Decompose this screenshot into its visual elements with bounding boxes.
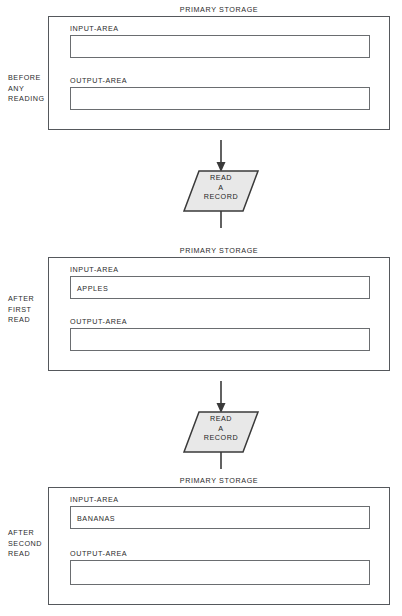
input-area-value-2: APPLES <box>77 284 108 293</box>
input-area-label-2: INPUT-AREA <box>70 265 119 274</box>
stage-label-3-line-2: SECOND <box>8 539 42 550</box>
primary-storage-box-3 <box>48 487 390 605</box>
stage-label-1-line-1: BEFORE <box>8 73 45 84</box>
input-area-label-1: INPUT-AREA <box>70 24 119 33</box>
stage-label-3-line-3: READ <box>8 549 42 560</box>
primary-storage-box-2 <box>48 257 390 371</box>
parallelogram-1 <box>184 171 258 211</box>
storage-title-1: PRIMARY STORAGE <box>48 5 390 14</box>
stage-label-1: BEFORE ANY READING <box>8 73 45 105</box>
stage-label-1-line-3: READING <box>8 94 45 105</box>
stage-label-1-line-2: ANY <box>8 84 45 95</box>
output-area-label-1: OUTPUT-AREA <box>70 76 127 85</box>
stage-label-2-line-2: FIRST <box>8 305 34 316</box>
read-a-record-shape-2 <box>180 381 262 469</box>
output-area-box-2 <box>70 328 370 351</box>
input-area-box-2 <box>70 276 370 299</box>
output-area-box-1 <box>70 87 370 110</box>
input-area-box-1 <box>70 35 370 58</box>
output-area-box-3 <box>70 560 370 585</box>
storage-title-2: PRIMARY STORAGE <box>48 246 390 255</box>
output-area-label-3: OUTPUT-AREA <box>70 549 127 558</box>
input-area-label-3: INPUT-AREA <box>70 495 119 504</box>
primary-storage-box-1 <box>48 16 390 130</box>
stage-label-3: AFTER SECOND READ <box>8 528 42 560</box>
stage-label-2-line-3: READ <box>8 315 34 326</box>
read-a-record-symbol-1: READ A RECORD <box>180 140 262 228</box>
diagram-canvas: PRIMARY STORAGE BEFORE ANY READING INPUT… <box>0 0 402 616</box>
read-a-record-symbol-2: READ A RECORD <box>180 381 262 469</box>
stage-label-2-line-1: AFTER <box>8 294 34 305</box>
read-a-record-shape-1 <box>180 140 262 228</box>
stage-label-2: AFTER FIRST READ <box>8 294 34 326</box>
output-area-label-2: OUTPUT-AREA <box>70 317 127 326</box>
input-area-value-3: BANANAS <box>77 514 115 523</box>
stage-label-3-line-1: AFTER <box>8 528 42 539</box>
storage-title-3: PRIMARY STORAGE <box>48 476 390 485</box>
parallelogram-2 <box>184 412 258 452</box>
